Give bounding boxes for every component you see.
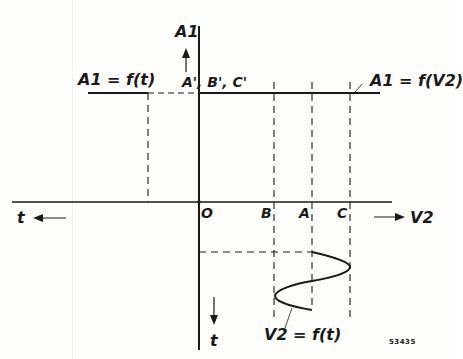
- a1-v2-leader: [355, 84, 362, 92]
- arrow-right-icon: [395, 213, 405, 221]
- axis-label-a1: A1: [175, 24, 199, 40]
- primed-points-label: A', B', C': [182, 75, 247, 89]
- axis-label-v2: V2: [410, 210, 434, 226]
- point-label-a: A: [299, 206, 310, 220]
- arrow-left-icon: [33, 214, 43, 222]
- arrow-up-icon: [182, 48, 190, 58]
- curve-label-v2-t: V2 = f(t): [264, 327, 341, 343]
- point-label-c: C: [337, 206, 347, 220]
- point-label-b: B: [261, 206, 272, 220]
- figure-id-number: 53435: [389, 339, 416, 346]
- curve-label-a1-t: A1 = f(t): [78, 72, 155, 88]
- axis-label-t-bottom: t: [210, 333, 218, 349]
- origin-label: O: [201, 206, 213, 220]
- axis-label-t-left: t: [17, 210, 25, 226]
- origin-dot: [197, 200, 201, 204]
- arrow-down-icon: [210, 315, 218, 325]
- curve-label-a1-v2: A1 = f(V2): [370, 73, 463, 89]
